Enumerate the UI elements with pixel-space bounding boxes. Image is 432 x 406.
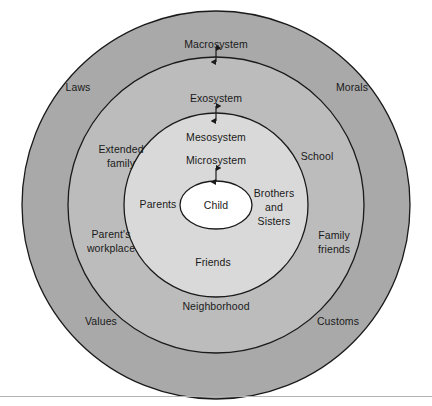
svg-text:family: family <box>107 157 136 169</box>
label-child: Child <box>204 199 228 211</box>
label-macrosystem: Macrosystem <box>184 38 248 50</box>
svg-text:Family: Family <box>318 229 350 241</box>
svg-text:and: and <box>265 201 283 213</box>
label-exosystem: Exosystem <box>190 92 242 104</box>
svg-text:Extended: Extended <box>98 143 143 155</box>
micro-item-friends: Friends <box>195 256 231 268</box>
svg-text:Brothers: Brothers <box>254 187 294 199</box>
svg-text:Parent's: Parent's <box>92 228 131 240</box>
svg-text:Sisters: Sisters <box>258 215 291 227</box>
micro-item-parents: Parents <box>140 198 177 210</box>
svg-text:friends: friends <box>318 243 350 255</box>
macro-item-values: Values <box>85 315 117 327</box>
ecological-systems-figure: Macrosystem Exosystem Mesosystem Microsy… <box>0 0 432 406</box>
ecological-systems-diagram: Macrosystem Exosystem Mesosystem Microsy… <box>0 0 432 406</box>
exo-item-school: School <box>301 150 334 162</box>
label-mesosystem: Mesosystem <box>186 131 246 143</box>
svg-text:workplace: workplace <box>86 242 135 254</box>
macro-item-customs: Customs <box>317 315 359 327</box>
exo-item-neighborhood: Neighborhood <box>182 300 249 312</box>
label-microsystem: Microsystem <box>186 154 246 166</box>
macro-item-laws: Laws <box>66 81 91 93</box>
macro-item-morals: Morals <box>336 81 368 93</box>
bottom-divider <box>0 396 432 397</box>
